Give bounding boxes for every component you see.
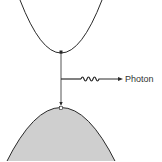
photon-arrowhead-icon	[118, 77, 123, 81]
hole-marker	[60, 107, 63, 110]
valence-band	[6, 108, 116, 162]
conduction-band	[20, 0, 102, 53]
photon-label: Photon	[125, 74, 154, 84]
photon-wave-icon	[81, 77, 103, 81]
transition-arrowhead-icon	[59, 102, 62, 106]
band-diagram: Photon	[0, 0, 162, 161]
